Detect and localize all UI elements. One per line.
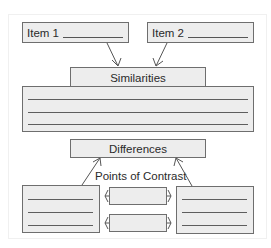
arrow-right-to-differences-icon bbox=[174, 158, 192, 186]
connector-arrows bbox=[0, 0, 271, 248]
arrow-item2-to-similarities-icon bbox=[153, 43, 167, 66]
arrow-item1-to-similarities-icon bbox=[107, 43, 121, 66]
contrast-1-double-arrow-icon bbox=[105, 190, 171, 202]
arrow-left-to-differences-icon bbox=[82, 158, 101, 185]
contrast-2-double-arrow-icon bbox=[105, 217, 171, 229]
